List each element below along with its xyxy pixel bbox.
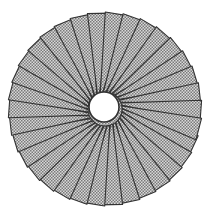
center-hole [89,92,119,122]
flap-disc-drawing [0,0,210,218]
